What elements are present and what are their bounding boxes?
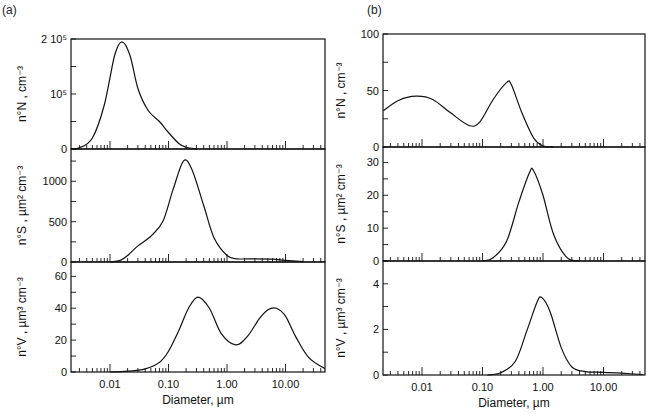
y-tick-label: 0 <box>373 369 379 381</box>
distribution-curve <box>487 297 643 375</box>
y-tick-label: 4 <box>373 278 379 290</box>
subplot-b-3: 024n°V , µm³ cm⁻³ <box>334 261 645 381</box>
y-tick-label: 30 <box>367 156 379 168</box>
y-tick-label: 10⁵ <box>50 88 67 100</box>
distribution-curve <box>110 160 303 262</box>
plot-frame <box>71 39 325 149</box>
x-tick-label: 1.00 <box>216 378 237 390</box>
plot-frame <box>71 149 325 262</box>
x-tick-label: 0.01 <box>411 381 432 393</box>
y-axis-label: n°V , µm³ cm⁻³ <box>334 278 348 358</box>
y-tick-label: 10 <box>367 222 379 234</box>
y-axis-label: n°N , cm⁻³ <box>334 62 348 118</box>
subplot-b-1: 050100n°N , cm⁻³ <box>334 28 645 153</box>
x-tick-label: 0.10 <box>472 381 493 393</box>
y-tick-label: 500 <box>49 216 67 228</box>
y-tick-label: 0 <box>61 256 67 268</box>
y-axis-label: n°V , µm³ cm⁻³ <box>15 277 29 357</box>
plot-frame <box>383 147 645 261</box>
subplot-a-1: 010⁵2 10⁵n°N , cm⁻³ <box>15 33 325 155</box>
plot-frame <box>71 262 325 372</box>
distribution-curve <box>483 168 580 261</box>
plot-frame <box>383 261 645 375</box>
y-tick-label: 0 <box>61 143 67 155</box>
x-tick-label: 10.00 <box>272 378 300 390</box>
y-tick-label: 50 <box>367 85 379 97</box>
distribution-curve <box>71 42 196 149</box>
x-axis-label: Diameter, µm <box>162 393 234 407</box>
distribution-curve <box>383 81 553 147</box>
subplot-a-2: 05001000n°S , µm² cm⁻³ <box>15 149 325 268</box>
y-tick-label: 2 <box>373 323 379 335</box>
panel-b-label: (b) <box>367 3 382 17</box>
y-tick-label: 20 <box>55 334 67 346</box>
x-tick-label: 10.00 <box>590 381 618 393</box>
y-axis-label: n°S , µm² cm⁻³ <box>15 166 29 246</box>
y-axis-label: n°N , cm⁻³ <box>15 66 29 122</box>
figure-canvas: (a) (b) 010⁵2 10⁵n°N , cm⁻³05001000n°S ,… <box>0 0 655 417</box>
y-tick-label: 1000 <box>43 175 67 187</box>
chart-a: 010⁵2 10⁵n°N , cm⁻³05001000n°S , µm² cm⁻… <box>15 33 325 407</box>
x-tick-label: 0.10 <box>158 378 179 390</box>
y-tick-label: 60 <box>55 270 67 282</box>
y-tick-label: 0 <box>373 255 379 267</box>
x-tick-label: 0.01 <box>99 378 120 390</box>
chart-b: 050100n°N , cm⁻³0102030n°S , µm² cm⁻³024… <box>334 28 645 410</box>
distribution-curve <box>110 297 325 372</box>
y-tick-label: 0 <box>373 141 379 153</box>
y-tick-label: 40 <box>55 302 67 314</box>
y-tick-label: 0 <box>61 366 67 378</box>
y-tick-label: 2 10⁵ <box>41 33 67 45</box>
x-tick-label: 1.00 <box>532 381 553 393</box>
y-axis-label: n°S , µm² cm⁻³ <box>334 164 348 244</box>
subplot-b-2: 0102030n°S , µm² cm⁻³ <box>334 147 645 267</box>
y-tick-label: 100 <box>361 28 379 40</box>
y-tick-label: 20 <box>367 189 379 201</box>
panel-a-label: (a) <box>2 3 17 17</box>
subplot-a-3: 0204060n°V , µm³ cm⁻³ <box>15 262 325 378</box>
x-axis-label: Diameter, µm <box>478 396 550 410</box>
